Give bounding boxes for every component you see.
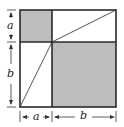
pythagorean-square-diagram [0,0,124,127]
small-square-a [20,10,52,42]
label-left-a: a [7,20,14,31]
label-bottom-a: a [33,111,40,122]
diagonal-upper [52,10,116,42]
large-square-b [52,42,116,107]
label-left-b: b [7,68,14,79]
diagonal-lower [20,42,52,107]
label-bottom-b: b [80,110,87,121]
